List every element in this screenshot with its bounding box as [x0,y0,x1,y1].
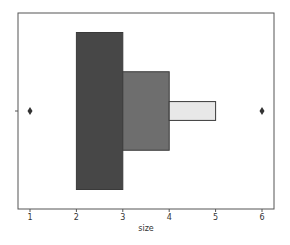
letter-value-boxes [76,33,215,190]
x-tick-label: 2 [74,213,79,222]
x-tick-label: 4 [167,213,172,222]
x-tick-label: 3 [120,213,125,222]
x-axis-ticks: 123456 [27,209,264,222]
letter-value-box-2 [123,72,169,151]
outlier-diamond [28,107,33,115]
x-axis-label: size [138,224,154,233]
x-tick-label: 1 [27,213,32,222]
letter-value-box-1 [76,33,122,190]
letter-value-box-3 [169,102,215,121]
x-tick-label: 5 [213,213,218,222]
outlier-diamond [260,107,265,115]
x-tick-label: 6 [259,213,264,222]
boxen-chart: 123456 size [0,0,290,245]
